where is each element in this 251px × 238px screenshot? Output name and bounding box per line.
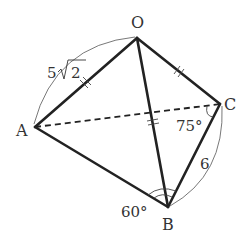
edge-ob [137,38,168,207]
length-label-oa: 5 2 [47,60,86,82]
length-label-bc: 6 [200,155,210,173]
diagram-canvas: O A B C 5 2 6 75° 60° [0,0,251,238]
vertex-label-o: O [131,13,144,32]
svg-text:5: 5 [47,64,57,82]
vertex-label-a: A [15,121,28,140]
tetrahedron-diagram: O A B C 5 2 6 75° 60° [0,0,251,238]
angle-arc-c [207,106,213,117]
svg-text:2: 2 [71,64,81,82]
angle-label-c: 75° [176,117,203,135]
angle-label-b: 60° [121,203,148,221]
vertex-label-c: C [224,95,236,114]
vertex-label-b: B [162,215,174,234]
edge-oc [137,38,220,104]
